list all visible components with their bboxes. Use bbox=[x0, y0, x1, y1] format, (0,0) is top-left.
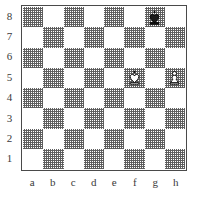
square-f7[interactable] bbox=[124, 27, 144, 47]
board-frame bbox=[21, 5, 187, 171]
square-g5[interactable] bbox=[145, 68, 165, 88]
square-f6[interactable] bbox=[124, 48, 144, 68]
file-label-g: g bbox=[145, 172, 166, 192]
square-h3[interactable] bbox=[165, 108, 185, 128]
rank-label-6: 6 bbox=[0, 47, 22, 67]
square-f1[interactable] bbox=[124, 149, 144, 169]
square-g4[interactable] bbox=[145, 88, 165, 108]
file-label-h: h bbox=[166, 172, 187, 192]
rank-label-5: 5 bbox=[0, 67, 22, 87]
square-h6[interactable] bbox=[165, 48, 185, 68]
square-h8[interactable] bbox=[165, 7, 185, 27]
square-g2[interactable] bbox=[145, 129, 165, 149]
rank-label-7: 7 bbox=[0, 26, 22, 46]
white-king-icon[interactable] bbox=[124, 68, 144, 88]
file-label-a: a bbox=[22, 172, 43, 192]
square-e8[interactable] bbox=[104, 7, 124, 27]
square-b4[interactable] bbox=[43, 88, 63, 108]
square-d6[interactable] bbox=[84, 48, 104, 68]
square-h2[interactable] bbox=[165, 129, 185, 149]
black-king-icon[interactable] bbox=[145, 7, 165, 27]
square-g3[interactable] bbox=[145, 108, 165, 128]
square-f8[interactable] bbox=[124, 7, 144, 27]
square-a3[interactable] bbox=[23, 108, 43, 128]
file-label-d: d bbox=[84, 172, 105, 192]
square-d2[interactable] bbox=[84, 129, 104, 149]
board-grid bbox=[23, 7, 185, 169]
square-a8[interactable] bbox=[23, 7, 43, 27]
square-g7[interactable] bbox=[145, 27, 165, 47]
chess-diagram: 8 7 6 5 4 3 2 1 a b c d e f g h bbox=[0, 0, 198, 202]
square-e4[interactable] bbox=[104, 88, 124, 108]
square-e7[interactable] bbox=[104, 27, 124, 47]
square-c4[interactable] bbox=[64, 88, 84, 108]
square-f2[interactable] bbox=[124, 129, 144, 149]
file-label-row: a b c d e f g h bbox=[22, 172, 186, 192]
square-b8[interactable] bbox=[43, 7, 63, 27]
square-e5[interactable] bbox=[104, 68, 124, 88]
square-a5[interactable] bbox=[23, 68, 43, 88]
square-g6[interactable] bbox=[145, 48, 165, 68]
square-a1[interactable] bbox=[23, 149, 43, 169]
square-b6[interactable] bbox=[43, 48, 63, 68]
square-a6[interactable] bbox=[23, 48, 43, 68]
file-label-f: f bbox=[125, 172, 146, 192]
square-c2[interactable] bbox=[64, 129, 84, 149]
square-c7[interactable] bbox=[64, 27, 84, 47]
rank-label-column: 8 7 6 5 4 3 2 1 bbox=[0, 6, 22, 169]
square-e6[interactable] bbox=[104, 48, 124, 68]
square-a4[interactable] bbox=[23, 88, 43, 108]
square-h5[interactable] bbox=[165, 68, 185, 88]
square-d5[interactable] bbox=[84, 68, 104, 88]
square-b7[interactable] bbox=[43, 27, 63, 47]
square-b1[interactable] bbox=[43, 149, 63, 169]
square-e3[interactable] bbox=[104, 108, 124, 128]
square-d3[interactable] bbox=[84, 108, 104, 128]
file-label-e: e bbox=[104, 172, 125, 192]
file-label-b: b bbox=[43, 172, 64, 192]
rank-label-3: 3 bbox=[0, 108, 22, 128]
square-b2[interactable] bbox=[43, 129, 63, 149]
square-c5[interactable] bbox=[64, 68, 84, 88]
square-e1[interactable] bbox=[104, 149, 124, 169]
file-label-c: c bbox=[63, 172, 84, 192]
rank-label-8: 8 bbox=[0, 6, 22, 26]
square-h4[interactable] bbox=[165, 88, 185, 108]
square-c3[interactable] bbox=[64, 108, 84, 128]
rank-label-1: 1 bbox=[0, 149, 22, 169]
square-f4[interactable] bbox=[124, 88, 144, 108]
square-a7[interactable] bbox=[23, 27, 43, 47]
white-pawn-icon[interactable] bbox=[165, 68, 185, 88]
square-c8[interactable] bbox=[64, 7, 84, 27]
square-c6[interactable] bbox=[64, 48, 84, 68]
square-b5[interactable] bbox=[43, 68, 63, 88]
square-b3[interactable] bbox=[43, 108, 63, 128]
rank-label-4: 4 bbox=[0, 88, 22, 108]
square-g1[interactable] bbox=[145, 149, 165, 169]
square-d7[interactable] bbox=[84, 27, 104, 47]
square-d1[interactable] bbox=[84, 149, 104, 169]
square-d8[interactable] bbox=[84, 7, 104, 27]
rank-label-2: 2 bbox=[0, 128, 22, 148]
square-a2[interactable] bbox=[23, 129, 43, 149]
square-f5[interactable] bbox=[124, 68, 144, 88]
square-g8[interactable] bbox=[145, 7, 165, 27]
square-h7[interactable] bbox=[165, 27, 185, 47]
square-h1[interactable] bbox=[165, 149, 185, 169]
square-c1[interactable] bbox=[64, 149, 84, 169]
square-f3[interactable] bbox=[124, 108, 144, 128]
square-e2[interactable] bbox=[104, 129, 124, 149]
square-d4[interactable] bbox=[84, 88, 104, 108]
